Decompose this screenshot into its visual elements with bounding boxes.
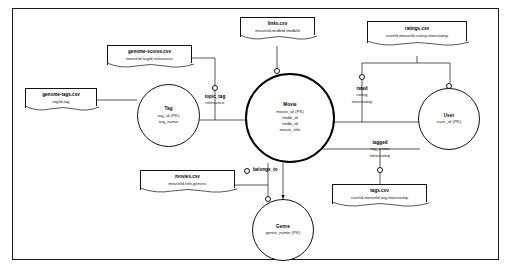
relationship-belongs-to: belongs_to [253, 167, 299, 173]
note-genome-scores-title: genome-scores.csv [108, 49, 191, 56]
note-movies-title: movies.csv [141, 174, 234, 181]
note-links-title: links.csv [241, 21, 314, 28]
note-wave-icon [140, 188, 237, 194]
note-genome-tags-columns: tagId,tag [26, 99, 96, 105]
relationship-belongs-to-title: belongs_to [253, 167, 299, 173]
entity-tag-attr-1: tag_name [159, 119, 179, 125]
note-genome-tags[interactable]: genome-tags.csv tagId,tag [25, 88, 97, 108]
connector-dot-links-movie [274, 68, 280, 74]
note-genome-tags-title: genome-tags.csv [26, 92, 96, 99]
note-genome-scores[interactable]: genome-scores.csv movieId,tagId,relevanc… [107, 45, 192, 65]
entity-genre[interactable]: Genre genre_name (PK) [252, 199, 314, 261]
wire-genomescores-topictag [192, 58, 215, 85]
relationship-rated-attr-1: timestamp [337, 99, 387, 105]
entity-genre-attr-0: genre_name (PK) [266, 230, 301, 236]
note-ratings[interactable]: ratings.csv userId,movieId,rating,timest… [367, 21, 467, 43]
note-wave-icon [367, 41, 469, 47]
connector-dot-ratings-user [446, 83, 452, 89]
er-diagram-canvas: Tag tag_id (PK) tag_name Movie movie_id … [0, 0, 511, 270]
relationship-topic-tag-attr-0: relevance [190, 100, 240, 106]
entity-user-attr-0: user_id (PK) [437, 119, 461, 125]
note-ratings-columns: userId,movieId,rating,timestamp [368, 33, 466, 39]
relationship-tagged-attr-1: timestamp [352, 153, 408, 159]
note-movies-columns: movieId,title,genres [141, 181, 234, 187]
entity-user[interactable]: User user_id (PK) [418, 88, 480, 150]
note-ratings-title: ratings.csv [368, 26, 466, 33]
note-wave-icon [107, 63, 194, 69]
connector-dot-topic-tag [212, 85, 218, 91]
connector-dot-rated [359, 74, 365, 80]
wire-ratings-user [417, 63, 450, 83]
relationship-rated: rated rating timestamp [337, 86, 387, 105]
relationship-topic-tag: topic_tag relevance [190, 94, 240, 107]
note-movies[interactable]: movies.csv movieId,title,genres [140, 170, 235, 190]
note-wave-icon [240, 35, 317, 41]
entity-movie[interactable]: Movie movie_id (PK) tmdb_id imdb_id movi… [245, 73, 335, 163]
note-genome-scores-columns: movieId,tagId,relevance [108, 56, 191, 62]
entity-movie-attr-3: movie_title [280, 127, 301, 133]
note-tags[interactable]: tags.csv userId,movieId,tag,timestamp [332, 184, 427, 204]
note-links[interactable]: links.csv movieId,imdbId,tmdbId [240, 17, 315, 37]
note-tags-title: tags.csv [333, 188, 426, 195]
connector-dot-tagged [377, 167, 383, 173]
note-wave-icon [332, 202, 429, 208]
connector-dot-genre [265, 196, 271, 202]
connector-dot-belongs-to [244, 168, 250, 174]
wire-ratings-rated [362, 56, 417, 74]
note-tags-columns: userId,movieId,tag,timestamp [333, 195, 426, 201]
note-links-columns: movieId,imdbId,tmdbId [241, 28, 314, 34]
note-wave-icon [25, 106, 99, 112]
relationship-tagged: tagged tag_name timestamp [352, 140, 408, 159]
